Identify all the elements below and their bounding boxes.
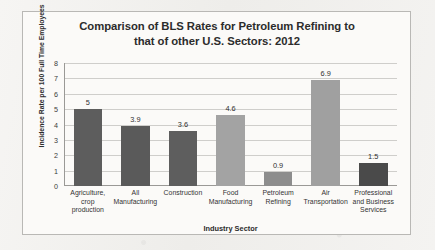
x-axis-category-label: FoodManufacturing: [207, 189, 255, 215]
bar[interactable]: 3.6: [169, 131, 198, 186]
category-label-line: Air: [303, 189, 349, 198]
category-label-line: crop: [65, 198, 111, 207]
category-label-line: Manufacturing: [113, 198, 159, 207]
y-axis-tick-label: 0: [38, 182, 58, 191]
bar-value-label: 3.6: [169, 120, 198, 129]
bar-slot: 4.6: [207, 63, 255, 186]
x-axis-category-label: PetroleumRefining: [254, 189, 302, 215]
category-label-line: Agriculture,: [65, 189, 111, 198]
category-label-line: production: [65, 206, 111, 215]
bar-value-label: 5: [74, 98, 103, 107]
category-label-line: Petroleum: [255, 189, 301, 198]
y-axis-tick-label: 2: [38, 151, 58, 160]
x-axis-title: Industry Sector: [64, 224, 397, 233]
chart-title-line-2: that of other U.S. Sectors: 2012: [41, 34, 393, 49]
plot-area: 876543210 53.93.64.60.96.91.5: [64, 63, 397, 186]
bar[interactable]: 6.9: [311, 80, 340, 186]
bar-value-label: 4.6: [216, 104, 245, 113]
y-axis-tick-label: 3: [38, 136, 58, 145]
category-label-line: and Business: [350, 198, 396, 207]
y-axis-tick-label: 4: [38, 121, 58, 130]
y-axis-tick-label: 5: [38, 105, 58, 114]
category-label-line: All: [113, 189, 159, 198]
bar-slot: 3.9: [112, 63, 160, 186]
category-label-line: Manufacturing: [208, 198, 254, 207]
bar-value-label: 6.9: [311, 69, 340, 78]
chart-container: Comparison of BLS Rates for Petroleum Re…: [22, 11, 411, 235]
y-axis-tick-label: 7: [38, 74, 58, 83]
category-label-line: Transportation: [303, 198, 349, 207]
bar[interactable]: 4.6: [216, 115, 245, 186]
x-axis-category-labels: Agriculture,cropproductionAllManufacturi…: [64, 189, 397, 215]
bar-slot: 6.9: [302, 63, 350, 186]
bar-value-label: 0.9: [264, 161, 293, 170]
category-label-line: Food: [208, 189, 254, 198]
chart-title: Comparison of BLS Rates for Petroleum Re…: [41, 19, 393, 48]
bar-series: 53.93.64.60.96.91.5: [64, 63, 397, 186]
y-axis-tick-label: 6: [38, 90, 58, 99]
y-axis-tick-label: 8: [38, 59, 58, 68]
x-axis-category-label: Agriculture,cropproduction: [64, 189, 112, 215]
category-label-line: Professional: [350, 189, 396, 198]
bar[interactable]: 1.5: [359, 163, 388, 186]
bar-slot: 1.5: [349, 63, 397, 186]
bar[interactable]: 0.9: [264, 172, 293, 186]
category-label-line: Refining: [255, 198, 301, 207]
bar-slot: 5: [64, 63, 112, 186]
bar-value-label: 1.5: [359, 152, 388, 161]
bar[interactable]: 5: [74, 109, 103, 186]
y-axis-tick-label: 1: [38, 167, 58, 176]
x-axis-category-label: Professionaland BusinessServices: [349, 189, 397, 215]
bar-slot: 0.9: [254, 63, 302, 186]
bar[interactable]: 3.9: [121, 126, 150, 186]
chart-title-line-1: Comparison of BLS Rates for Petroleum Re…: [41, 19, 393, 34]
bar-value-label: 3.9: [121, 115, 150, 124]
category-label-line: Construction: [160, 189, 206, 198]
x-axis-category-label: Construction: [159, 189, 207, 215]
bar-slot: 3.6: [159, 63, 207, 186]
x-axis-category-label: AllManufacturing: [112, 189, 160, 215]
x-axis-category-label: AirTransportation: [302, 189, 350, 215]
category-label-line: Services: [350, 206, 396, 215]
